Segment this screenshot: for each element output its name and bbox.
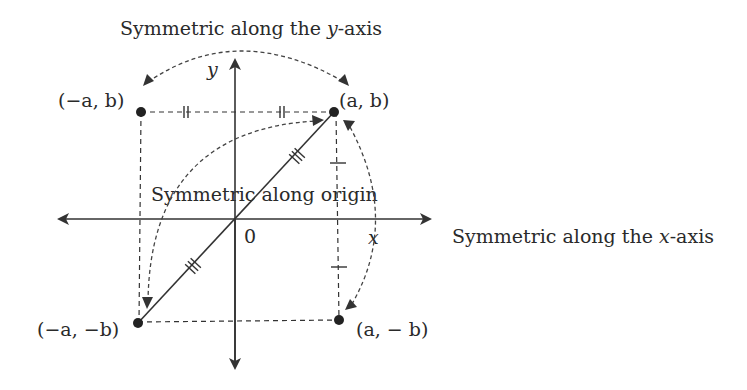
- origin-symmetry-arc: [148, 121, 316, 302]
- left-dashed-line: [139, 112, 141, 322]
- bottom-dashed-line: [138, 320, 339, 322]
- triple-tick-upper: [289, 148, 305, 163]
- label-neg-a-b: (−a, b): [58, 89, 124, 111]
- symmetry-diagram: Symmetric along the y-axis Symmetric alo…: [0, 0, 747, 390]
- double-tick-right: [280, 106, 284, 118]
- point-neg-a-b: [136, 107, 146, 117]
- x-axis-symmetry-label: Symmetric along the x-axis: [452, 225, 714, 247]
- point-a-neg-b: [334, 315, 344, 325]
- point-neg-a-neg-b: [133, 318, 143, 328]
- y-axis-label: y: [206, 58, 218, 80]
- y-axis-symmetry-title: Symmetric along the y-axis: [120, 17, 382, 39]
- label-a-neg-b: (a, − b): [356, 318, 428, 340]
- arrowhead-x-to-P4: [345, 299, 357, 310]
- label-neg-a-neg-b: (−a, −b): [37, 318, 119, 340]
- label-a-b: (a, b): [339, 89, 389, 111]
- arrowhead-left-top: [143, 74, 154, 86]
- origin-diagonal: [138, 112, 334, 323]
- point-a-b: [329, 107, 339, 117]
- arrowhead-right-top: [338, 74, 349, 86]
- arrowhead-x-to-P1: [343, 120, 355, 131]
- right-dashed-line: [336, 112, 339, 320]
- y-axis-symmetry-arc: [148, 51, 344, 82]
- arrowhead-origin-to-P3: [142, 297, 153, 309]
- triple-tick-lower: [185, 258, 201, 273]
- origin-label: 0: [244, 225, 256, 247]
- x-axis-symmetry-arc: [350, 127, 376, 304]
